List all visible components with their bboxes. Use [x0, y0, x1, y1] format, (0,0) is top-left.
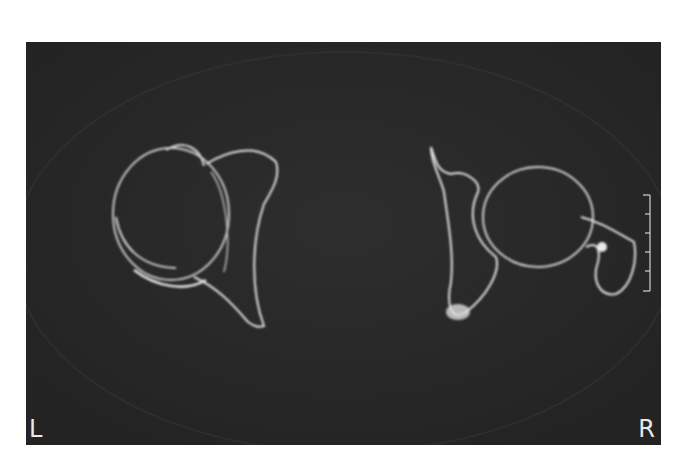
ct-scan-image [26, 42, 661, 445]
left-orientation-label: L [29, 417, 42, 441]
ct-scan-panel: L R [26, 42, 661, 445]
right-orientation-label: R [638, 417, 655, 441]
